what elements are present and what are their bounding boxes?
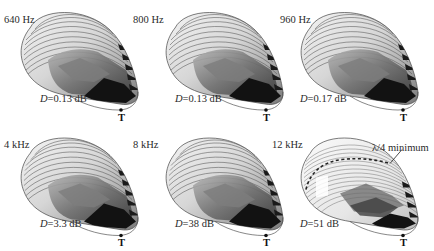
panel-960hz: 960 Hz D=0.17 dB T [290, 0, 434, 125]
t-marker-label: T [118, 112, 125, 123]
surface-plot [145, 0, 290, 125]
panel-800hz: 800 Hz D=0.13 dB T [145, 0, 290, 125]
t-marker-label: T [263, 237, 270, 248]
frequency-label: 4 kHz [4, 139, 29, 150]
d-value-label: D=0.17 dB [300, 93, 347, 104]
d-value-label: D=38 dB [175, 218, 214, 229]
panel-640hz: 640 Hz D=0.13 dB T [0, 0, 145, 125]
frequency-label: 640 Hz [4, 14, 35, 25]
d-value-label: D=0.13 dB [175, 93, 222, 104]
surface-plot [145, 125, 290, 251]
d-value-label: D=3.3 dB [40, 218, 82, 229]
d-value-label: D=0.13 dB [40, 93, 87, 104]
lambda-quarter-minimum-annotation: λ/4 minimum [372, 142, 429, 153]
panel-12khz: 12 kHz λ/4 minimum D=51 dB T [290, 125, 434, 250]
t-marker-label: T [263, 112, 270, 123]
t-marker-label: T [400, 112, 407, 123]
d-value-label: D=51 dB [300, 218, 339, 229]
frequency-label: 8 kHz [133, 139, 158, 150]
frequency-label: 960 Hz [280, 14, 311, 25]
t-marker-label: T [400, 237, 407, 248]
panel-8khz: 8 kHz D=38 dB T [145, 125, 290, 250]
frequency-label: 12 kHz [272, 139, 303, 150]
surface-plot [290, 0, 434, 125]
t-marker-label: T [118, 237, 125, 248]
frequency-label: 800 Hz [133, 14, 164, 25]
panel-4khz: 4 kHz D=3.3 dB T [0, 125, 145, 250]
